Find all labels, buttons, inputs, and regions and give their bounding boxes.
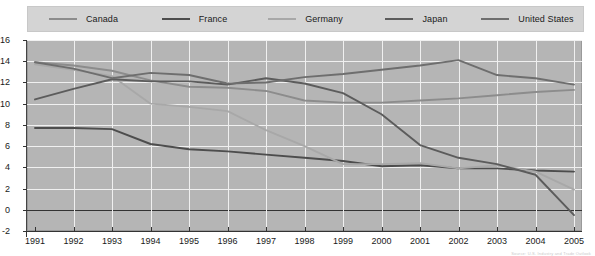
legend-label: Canada — [86, 14, 118, 24]
y-tick-label: 12 — [0, 77, 10, 87]
x-tick-mark — [343, 227, 344, 232]
chart-footnote: Source: U.S. Industry and Trade Outlook — [511, 251, 591, 256]
y-tick-label: 16 — [0, 35, 10, 45]
x-tick-label: 2000 — [371, 236, 391, 246]
legend-label: France — [199, 14, 228, 24]
x-tick-mark — [382, 227, 383, 232]
legend-item-france[interactable]: France — [139, 14, 250, 24]
legend-item-japan[interactable]: Japan — [361, 14, 472, 24]
x-tick-mark — [420, 227, 421, 232]
legend-item-canada[interactable]: Canada — [28, 14, 139, 24]
legend-label: United States — [518, 14, 573, 24]
legend-swatch-icon — [268, 18, 296, 20]
x-tick-mark — [459, 227, 460, 232]
y-tick-label: 2 — [0, 184, 10, 194]
x-tick-label: 1994 — [140, 236, 160, 246]
x-tick-label: 1993 — [102, 236, 122, 246]
x-tick-label: 1995 — [179, 236, 199, 246]
y-tick-label: 0 — [0, 205, 10, 215]
x-tick-label: 2002 — [448, 236, 468, 246]
x-tick-mark — [574, 227, 575, 232]
series-lines — [27, 40, 582, 231]
series-line-canada — [35, 62, 574, 102]
y-tick-label: 14 — [0, 56, 10, 66]
chart-root: CanadaFranceGermanyJapanUnited States -2… — [0, 0, 595, 256]
x-tick-mark — [228, 227, 229, 232]
y-tick-label: 6 — [0, 141, 10, 151]
x-tick-label: 2001 — [410, 236, 430, 246]
x-tick-label: 1997 — [256, 236, 276, 246]
x-tick-mark — [35, 227, 36, 232]
x-tick-mark — [74, 227, 75, 232]
x-tick-mark — [112, 227, 113, 232]
y-tick-label: -2 — [0, 226, 10, 236]
x-tick-mark — [151, 227, 152, 232]
legend-swatch-icon — [49, 18, 77, 20]
x-tick-mark — [536, 227, 537, 232]
x-tick-mark — [305, 227, 306, 232]
plot-area — [27, 40, 582, 231]
legend-label: Germany — [305, 14, 343, 24]
x-tick-mark — [497, 227, 498, 232]
chart-legend: CanadaFranceGermanyJapanUnited States — [27, 6, 584, 32]
x-tick-label: 2005 — [564, 236, 584, 246]
x-tick-label: 1996 — [217, 236, 237, 246]
legend-swatch-icon — [385, 18, 413, 20]
x-tick-label: 1991 — [25, 236, 45, 246]
legend-label: Japan — [422, 14, 447, 24]
legend-item-united-states[interactable]: United States — [472, 14, 583, 24]
x-tick-label: 1998 — [294, 236, 314, 246]
y-tick-label: 8 — [0, 120, 10, 130]
x-tick-mark — [266, 227, 267, 232]
y-tick-label: 4 — [0, 162, 10, 172]
x-tick-label: 2003 — [487, 236, 507, 246]
x-tick-mark — [189, 227, 190, 232]
legend-item-germany[interactable]: Germany — [250, 14, 361, 24]
x-tick-label: 1992 — [63, 236, 83, 246]
y-tick-label: 10 — [0, 99, 10, 109]
x-tick-label: 2004 — [525, 236, 545, 246]
legend-swatch-icon — [162, 18, 190, 20]
legend-swatch-icon — [481, 18, 509, 20]
x-tick-label: 1999 — [333, 236, 353, 246]
